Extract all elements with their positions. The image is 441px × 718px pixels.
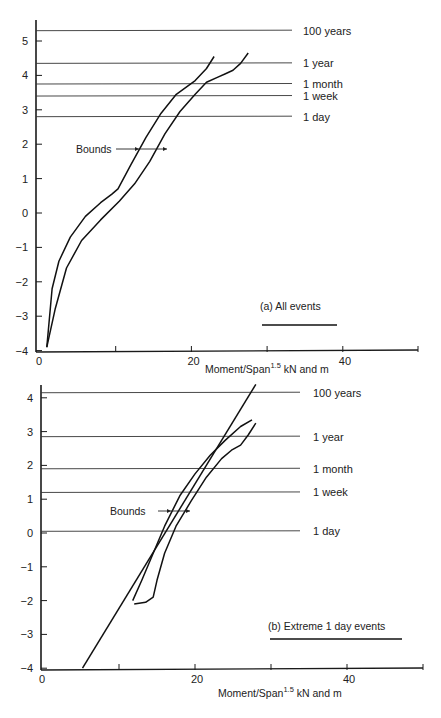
y-tick-label: −4 — [20, 662, 33, 674]
reference-line — [41, 436, 300, 437]
reference-line-label: 1 week — [313, 486, 348, 498]
reference-line — [36, 30, 292, 31]
x-axis — [41, 668, 423, 670]
series-line — [83, 384, 256, 668]
reference-line — [36, 84, 292, 85]
y-tick-label: 1 — [27, 493, 33, 505]
reference-line-label: 1 year — [313, 431, 344, 443]
chart-panel-a: 02040−4−3−2−1012345100 years1 year1 mont… — [15, 20, 418, 375]
y-tick-label: −3 — [15, 310, 28, 322]
reference-line — [41, 492, 300, 493]
y-tick-label: −3 — [20, 628, 33, 640]
reference-line-label: 100 years — [313, 387, 362, 399]
series-line — [134, 423, 256, 604]
arrowhead-icon — [186, 509, 190, 513]
x-tick-label: 0 — [39, 673, 45, 685]
y-tick-label: 0 — [22, 207, 28, 219]
reference-line-label: 1 day — [303, 111, 330, 123]
reference-line — [36, 63, 292, 64]
x-axis-title: Moment/Span1.5 kN and m — [205, 361, 329, 375]
y-tick-label: 4 — [22, 69, 28, 81]
panel-label: (a) All events — [260, 300, 321, 312]
y-tick-label: −2 — [20, 595, 33, 607]
reference-line-label: 1 year — [303, 57, 334, 69]
chart-panel-b: 02040−4−3−2−101234100 years1 year1 month… — [20, 384, 423, 699]
reference-line-label: 1 day — [313, 525, 340, 537]
arrowhead-icon — [163, 147, 167, 151]
reference-line-label: 1 month — [313, 463, 353, 475]
x-axis — [36, 350, 418, 352]
y-tick-label: 1 — [22, 173, 28, 185]
y-tick-label: 4 — [27, 392, 33, 404]
reference-line — [36, 96, 292, 97]
series-line — [133, 420, 252, 601]
reference-line — [36, 116, 292, 117]
series-line — [47, 53, 248, 347]
x-tick-label: 40 — [343, 673, 355, 685]
y-tick-label: −2 — [15, 276, 28, 288]
y-tick-label: −1 — [20, 561, 33, 573]
reference-line-label: 1 month — [303, 78, 343, 90]
bounds-annotation: Bounds — [110, 505, 146, 517]
reference-line-label: 100 years — [303, 25, 352, 37]
arrowhead-icon — [167, 509, 171, 513]
reference-line — [41, 531, 300, 532]
reference-line — [41, 468, 300, 469]
y-tick-label: 3 — [27, 426, 33, 438]
y-tick-label: −4 — [15, 345, 28, 357]
reference-line — [41, 392, 300, 393]
figure-canvas: 02040−4−3−2−1012345100 years1 year1 mont… — [0, 0, 441, 718]
x-tick-label: 20 — [191, 673, 203, 685]
y-tick-label: −1 — [15, 241, 28, 253]
reference-line-label: 1 week — [303, 90, 338, 102]
x-tick-label: 20 — [187, 355, 199, 367]
bounds-annotation: Bounds — [76, 143, 112, 155]
panel-label: (b) Extreme 1 day events — [268, 620, 385, 632]
series-line — [47, 57, 214, 348]
y-tick-label: 2 — [22, 138, 28, 150]
x-axis-title: Moment/Span1.5 kN and m — [218, 685, 342, 699]
y-tick-label: 5 — [22, 35, 28, 47]
x-tick-label: 40 — [339, 355, 351, 367]
y-tick-label: 2 — [27, 459, 33, 471]
x-tick-label: 0 — [36, 355, 42, 367]
y-tick-label: 3 — [22, 104, 28, 116]
y-tick-label: 0 — [27, 527, 33, 539]
